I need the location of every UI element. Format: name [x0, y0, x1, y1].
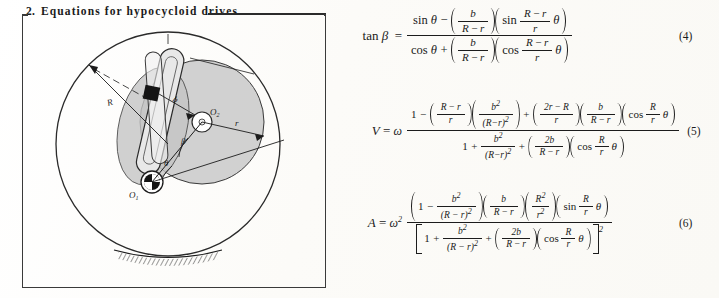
- paren-cos-Roverr-theta-6: cos R r θ: [537, 228, 591, 251]
- bracket-group-denominator: 1 + b2 (R − r)2 + 2b R−r: [416, 224, 603, 253]
- equation-4-lhs: tan β =: [330, 28, 407, 44]
- label-O1: O1: [129, 190, 139, 201]
- cos-fn: cos: [411, 44, 428, 57]
- paren-group-sin-term: sin R−r r θ: [495, 8, 566, 34]
- equals-sign: =: [391, 28, 402, 43]
- equation-5-denominator: 1 + b2 (R−r)2 + 2b R−r: [458, 131, 628, 161]
- sin-fn: sin: [413, 14, 428, 27]
- label-R: R: [105, 97, 114, 109]
- paren-cos-Roverr-theta-den: cos R r θ: [570, 136, 624, 159]
- plus-op-5: +: [520, 109, 533, 121]
- equation-6-lhs: A = ω2: [330, 215, 407, 231]
- paren-sin-Roverr-theta: sin R r θ: [556, 195, 608, 218]
- equation-6-fraction: 1 − b2 (R − r)2 b R−r: [407, 192, 612, 254]
- equation-4-denominator: cos θ + b R−r cos: [407, 36, 572, 63]
- sin-fn-2: sin: [502, 14, 517, 27]
- theta-tail: θ: [550, 14, 559, 27]
- plus-op: +: [437, 44, 451, 57]
- bracket-exponent: 2: [599, 224, 603, 234]
- cos-fn-2: cos: [502, 44, 519, 57]
- fraction-b-over-Rminusr-2: b R−r: [458, 37, 488, 63]
- equation-6-body: 1 − b2 (R − r)2 b R−r: [407, 192, 671, 254]
- label-beta: β: [180, 136, 186, 146]
- equation-5: V = ω 1 − R−r r: [330, 100, 719, 162]
- equation-6-number: (6): [671, 217, 719, 229]
- equations-column: tan β = sin θ − b R−r: [330, 0, 719, 298]
- beta-symbol: β: [382, 28, 388, 43]
- equation-5-fraction: 1 − R−r r b2 (R−r)2: [407, 100, 679, 162]
- equation-6: A = ω2 1 − b2 (R − r)2: [330, 192, 719, 254]
- paren-2b-over-Rminusr-6: 2b R−r: [495, 228, 537, 251]
- cos-fn-5: cos: [629, 109, 644, 121]
- paren-one-minus-bsq: 1 − b2 (R − r)2: [411, 192, 483, 221]
- label-r: r: [235, 118, 239, 128]
- equals-sign-6: =: [379, 215, 386, 230]
- paren-group-b-over-Rr: b R−r: [451, 8, 495, 34]
- paren-Rsq-over-rsq: R2 r2: [525, 192, 557, 221]
- paren-bsq-over-Rminusrsq: b2 (R−r)2: [472, 100, 520, 129]
- label-theta: θ: [164, 158, 169, 168]
- paren-group-b-over-Rr-2: b R−r: [451, 37, 495, 63]
- equation-4-numerator: sin θ − b R−r sin: [409, 8, 570, 35]
- denominator-Rminusr: R−r: [458, 22, 488, 35]
- omega-symbol-6: ω: [390, 216, 398, 230]
- minus-op: −: [437, 14, 451, 27]
- equation-4-number: (4): [671, 30, 719, 42]
- omega-exponent: 2: [398, 215, 402, 224]
- equation-4-body: sin θ − b R−r sin: [407, 8, 671, 63]
- minus-op-5: −: [417, 109, 430, 121]
- sin-fn-6: sin: [563, 201, 576, 213]
- paren-cos-Roverr-theta: cos R r θ: [622, 103, 676, 126]
- paren-b-over-Rminusr-6: b R−r: [483, 195, 525, 218]
- V-symbol: V: [372, 123, 380, 138]
- equation-5-number: (5): [679, 125, 719, 137]
- paren-Rminusr-over-r: R−r r: [430, 103, 472, 126]
- hypocycloid-diagram: R r b β θ O1 O2: [22, 14, 326, 288]
- equation-4-fraction: sin θ − b R−r sin: [407, 8, 572, 63]
- paren-b-over-Rminusr-5: b R−r: [580, 103, 622, 126]
- fraction-b-over-Rminusr: b R−r: [458, 8, 488, 34]
- omega-symbol: ω: [394, 124, 402, 138]
- equation-5-body: 1 − R−r r b2 (R−r)2: [407, 100, 679, 162]
- paren-2b-over-Rminusr: 2b R−r: [528, 136, 570, 159]
- fraction-Rminusr-over-r-2: R−r r: [522, 37, 552, 63]
- equation-6-denominator: 1 + b2 (R − r)2 + 2b R−r: [412, 223, 607, 253]
- equation-6-numerator: 1 − b2 (R − r)2 b R−r: [407, 192, 612, 222]
- numerator-b: b: [466, 8, 480, 21]
- fraction-bsq-over-Rminusrsq-den: b2 (R−r)2: [481, 132, 515, 161]
- tan-symbol: tan: [363, 28, 379, 43]
- fraction-Rminusr-over-r: R−r r: [520, 8, 550, 34]
- equals-sign-5: =: [383, 123, 390, 138]
- A-symbol: A: [368, 215, 376, 230]
- equation-5-lhs: V = ω: [330, 123, 407, 139]
- paren-group-cos-term: cos R−r r θ: [495, 37, 568, 63]
- paren-2rminusR-over-r: 2r−R r: [533, 103, 580, 126]
- equation-5-numerator: 1 − R−r r b2 (R−r)2: [407, 100, 679, 130]
- equation-4: tan β = sin θ − b R−r: [330, 8, 719, 63]
